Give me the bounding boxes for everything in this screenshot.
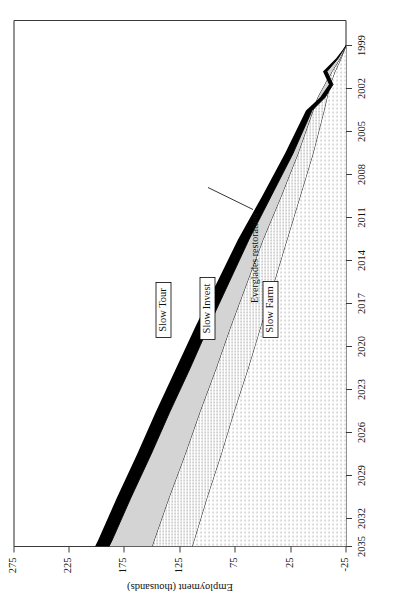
- x-tick-label-2011: 2011: [356, 207, 367, 228]
- figure-canvas: 275 225 175 125 75 25 -25 Employment (th…: [0, 0, 400, 601]
- x-axis: 1999 2002 2005 2008 2011 2014 2017 2020 …: [346, 35, 367, 557]
- x-tick-label-2017: 2017: [356, 293, 367, 314]
- x-tick-label-2014: 2014: [356, 249, 367, 271]
- x-tick-label-2005: 2005: [356, 121, 367, 142]
- y-axis: 275 225 175 125 75 25 -25 Employment (th…: [7, 546, 350, 592]
- y-tick-label-125: 125: [173, 557, 184, 573]
- stacked-areas: [95, 45, 346, 546]
- band-label-slow-tour-text: Slow Tour: [157, 287, 168, 331]
- band-label-slow-farm-text: Slow Farm: [264, 286, 275, 332]
- x-tick-label-1999: 1999: [356, 35, 367, 56]
- employment-stacked-area-chart: 275 225 175 125 75 25 -25 Employment (th…: [0, 0, 400, 601]
- band-label-slow-farm: Slow Farm: [263, 281, 278, 337]
- x-tick-label-2035: 2035: [356, 536, 367, 557]
- y-tick-label-75: 75: [228, 557, 239, 568]
- x-tick-label-2032: 2032: [356, 508, 367, 529]
- band-label-slow-invest-text: Slow Invest: [201, 283, 212, 333]
- y-tick-label-225: 225: [62, 557, 73, 573]
- annotation-everglades-text: Everglades restoration: [249, 213, 260, 303]
- y-tick-label-neg25: -25: [339, 557, 350, 571]
- y-axis-title: Employment (thousands): [127, 580, 233, 592]
- annotation-leader-line: [208, 187, 253, 209]
- y-tick-label-175: 175: [117, 557, 128, 573]
- x-tick-label-2023: 2023: [356, 379, 367, 400]
- y-tick-label-25: 25: [284, 557, 295, 568]
- band-label-slow-invest: Slow Invest: [200, 277, 215, 339]
- x-tick-label-2029: 2029: [356, 465, 367, 486]
- y-tick-label-275: 275: [7, 557, 18, 573]
- x-tick-label-2008: 2008: [356, 164, 367, 185]
- x-tick-label-2002: 2002: [356, 78, 367, 99]
- rotated-chart-container: 275 225 175 125 75 25 -25 Employment (th…: [0, 0, 400, 601]
- chart-area: 275 225 175 125 75 25 -25 Employment (th…: [0, 0, 400, 601]
- x-tick-label-2020: 2020: [356, 336, 367, 357]
- x-tick-label-2026: 2026: [356, 422, 367, 443]
- band-label-slow-tour: Slow Tour: [156, 282, 171, 337]
